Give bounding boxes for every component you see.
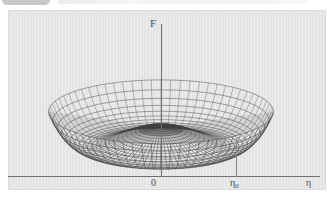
figure-container: F 0 η0 η	[0, 0, 334, 198]
page-top-badge-artifact	[2, 0, 50, 5]
eta0-drop-line	[236, 138, 237, 177]
surface-mesh	[8, 10, 326, 190]
F-axis-line	[161, 24, 162, 177]
eta-axis-label: η	[306, 178, 311, 188]
eta-axis-line	[8, 176, 320, 177]
page-top-faint-text-artifact	[58, 0, 308, 4]
eta0-tick-label-subscript: 0	[235, 182, 239, 190]
eta0-tick-label: η0	[230, 178, 239, 190]
F-axis-label: F	[150, 18, 156, 29]
surface-mesh-svg	[8, 10, 326, 190]
origin-label: 0	[151, 178, 156, 188]
plot-panel: F 0 η0 η	[8, 10, 326, 190]
